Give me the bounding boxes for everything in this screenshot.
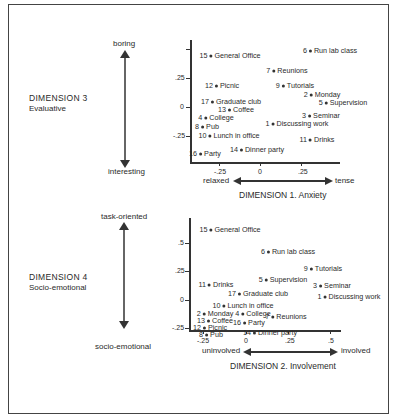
data-point: 17Graduate club — [228, 289, 288, 298]
x-tick-label: .25 — [285, 337, 295, 344]
dimension-3-title: DIMENSION 3 — [29, 93, 88, 103]
y-tick — [186, 136, 190, 137]
vertical-double-arrow-icon — [118, 50, 132, 168]
dimension-4-subtitle: Socio-emotional — [29, 283, 86, 292]
x-tick-label: .5 — [328, 337, 334, 344]
x-caption-dimension-1: DIMENSION 1. Anxiety — [239, 190, 326, 200]
data-point: 15General Office — [199, 225, 260, 234]
y-tick — [186, 78, 190, 79]
y-tick — [186, 49, 190, 50]
data-point: 11Drinks — [300, 135, 335, 144]
y-tick — [185, 271, 189, 272]
data-point: 16Party — [233, 318, 265, 327]
x-tick-label: 0 — [244, 337, 248, 344]
x-tick-label: 0 — [258, 168, 262, 175]
y-tick-label: -.25 — [172, 324, 184, 331]
horizontal-double-arrow-icon — [233, 176, 333, 186]
y-tick-label: 0 — [180, 103, 184, 110]
x-tick-label: -.25 — [214, 168, 226, 175]
data-point: 15General Office — [199, 51, 260, 60]
y-tick — [186, 107, 190, 108]
y-tick — [185, 243, 189, 244]
data-point: 9Tutorials — [304, 264, 342, 273]
vertical-double-arrow-icon — [117, 222, 131, 329]
data-point: 1Discussing work — [318, 292, 381, 301]
data-point: 9Tutorials — [276, 81, 314, 90]
data-point: 5Supervision — [259, 275, 308, 284]
data-point: 6Run lab class — [261, 247, 315, 256]
pole-boring: boring — [113, 39, 135, 48]
pole-task-oriented: task-oriented — [101, 212, 147, 221]
x-tick — [219, 163, 220, 166]
data-point: 14Dinner party — [230, 145, 284, 154]
horizontal-double-arrow-icon — [243, 347, 338, 357]
data-point: 6Run lab class — [303, 46, 357, 55]
data-point: 5Supervision — [319, 98, 368, 107]
x-tick — [260, 163, 261, 166]
pole-uninvolved: uninvolved — [202, 346, 240, 355]
pole-socio-emotional: socio-emotional — [95, 342, 151, 351]
pole-involved: involved — [341, 346, 370, 355]
data-point: 11Drinks — [199, 280, 234, 289]
y-axis-bottom — [189, 218, 191, 331]
y-axis-top — [190, 40, 192, 163]
data-point: 8Pub — [199, 330, 223, 339]
data-point: 14Dinner party — [243, 328, 297, 337]
x-caption-dimension-2: DIMENSION 2. Involvement — [230, 361, 336, 371]
pole-relaxed: relaxed — [203, 176, 229, 185]
x-tick — [301, 163, 302, 166]
y-tick-label: .5 — [178, 239, 184, 246]
y-tick — [185, 300, 189, 301]
x-tick-label: .25 — [298, 168, 308, 175]
y-tick-label: .25 — [175, 267, 185, 274]
data-point: 12Picnic — [205, 81, 239, 90]
data-point: 1Discussing work — [266, 119, 329, 128]
data-point: 7Reunions — [266, 66, 307, 75]
dimension-4-title: DIMENSION 4 — [29, 272, 88, 282]
pole-tense: tense — [335, 176, 355, 185]
y-tick-label: -.25 — [173, 132, 185, 139]
x-axis-top — [190, 162, 340, 164]
y-tick-label: .25 — [175, 74, 185, 81]
data-point: 7Reunions — [265, 312, 306, 321]
y-tick — [185, 328, 189, 329]
data-point: 10Lunch in office — [198, 131, 259, 140]
data-point: 8Pub — [195, 122, 219, 131]
data-point: 4College — [198, 113, 233, 122]
dimension-3-subtitle: Evaluative — [29, 104, 66, 113]
pole-interesting: interesting — [108, 167, 145, 176]
x-tick — [330, 331, 331, 334]
y-tick-label: 0 — [180, 296, 184, 303]
data-point: 16Party — [189, 149, 221, 158]
data-point: 3Seminar — [313, 281, 351, 290]
